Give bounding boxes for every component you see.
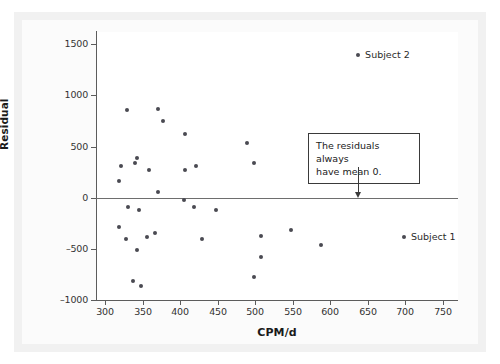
x-tick-label: 350 <box>123 306 163 317</box>
callout-arrow-head-icon <box>355 192 361 198</box>
data-point <box>245 141 249 145</box>
y-tick-mark <box>91 249 96 250</box>
x-tick-mark <box>143 300 144 305</box>
data-point <box>119 164 123 168</box>
y-tick-label-wrap: –1000 <box>50 294 88 306</box>
x-tick-label: 750 <box>423 306 463 317</box>
y-axis-title: Residual <box>0 98 10 150</box>
x-tick-mark <box>255 300 256 305</box>
x-axis-title: CPM/d <box>96 326 458 339</box>
y-tick-mark <box>91 147 96 148</box>
data-point <box>147 168 151 172</box>
y-tick-label: 0 <box>82 192 88 203</box>
x-tick-mark <box>180 300 181 305</box>
y-tick-mark <box>91 95 96 96</box>
y-tick-label-wrap: –500 <box>50 243 88 255</box>
data-point <box>182 198 186 202</box>
data-point <box>156 107 160 111</box>
data-point <box>131 279 135 283</box>
x-tick-label: 600 <box>310 306 350 317</box>
y-tick-label-wrap: 1000 <box>50 89 88 101</box>
x-tick-mark <box>443 300 444 305</box>
callout-line-2: have mean 0. <box>316 165 413 178</box>
data-point <box>117 179 121 183</box>
residual-plot-figure: 150010005000–500–1000 300350400450500550… <box>0 0 500 364</box>
data-point <box>402 235 406 239</box>
y-axis-line <box>96 31 97 301</box>
data-point <box>153 231 157 235</box>
callout-arrow-line <box>358 167 359 193</box>
x-tick-mark <box>405 300 406 305</box>
data-point <box>137 208 141 212</box>
x-tick-label: 700 <box>385 306 425 317</box>
x-tick-label: 400 <box>160 306 200 317</box>
y-tick-mark <box>91 300 96 301</box>
x-axis-line <box>96 300 458 301</box>
zero-reference-line <box>96 198 458 199</box>
y-tick-mark <box>91 44 96 45</box>
x-tick-mark <box>293 300 294 305</box>
y-tick-label: 1500 <box>65 38 88 49</box>
y-tick-mark <box>91 198 96 199</box>
callout-line-1: The residuals always <box>316 139 413 165</box>
data-point <box>194 164 198 168</box>
data-point <box>252 275 256 279</box>
x-tick-label: 450 <box>198 306 238 317</box>
data-point <box>200 237 204 241</box>
x-tick-mark <box>330 300 331 305</box>
subject-2-label: Subject 2 <box>365 49 410 60</box>
mean-zero-callout: The residuals alwayshave mean 0. <box>308 133 420 184</box>
y-tick-label: –500 <box>66 243 88 254</box>
subject-1-label: Subject 1 <box>411 231 456 242</box>
data-point <box>133 161 137 165</box>
x-tick-label: 550 <box>273 306 313 317</box>
x-tick-mark <box>218 300 219 305</box>
x-tick-mark <box>105 300 106 305</box>
x-tick-mark <box>368 300 369 305</box>
x-tick-label: 300 <box>85 306 125 317</box>
data-point <box>145 235 149 239</box>
data-point <box>161 119 165 123</box>
y-tick-label: 1000 <box>65 89 88 100</box>
data-point <box>124 237 128 241</box>
x-tick-label: 650 <box>348 306 388 317</box>
data-point <box>183 168 187 172</box>
y-tick-label: 500 <box>70 141 88 152</box>
data-point <box>126 205 130 209</box>
y-tick-label-wrap: 500 <box>50 141 88 153</box>
y-tick-label-wrap: 0 <box>50 192 88 204</box>
x-tick-label: 500 <box>235 306 275 317</box>
y-tick-label-wrap: 1500 <box>50 38 88 50</box>
y-tick-label: –1000 <box>60 294 88 305</box>
